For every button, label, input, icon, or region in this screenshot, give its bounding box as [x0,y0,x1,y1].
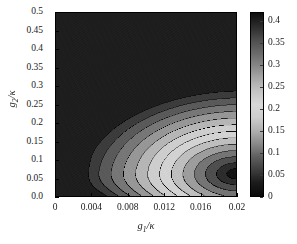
colorbar-tick-label: 0 [268,192,273,202]
y-axis-label: g2/κ [6,77,20,121]
colorbar-ticks: 00.050.10.150.20.250.30.350.4 [250,0,297,244]
x-axis-label: g1/κ [55,220,237,234]
colorbar-tick-mark [260,109,263,110]
colorbar-tick-label: 0.3 [268,60,280,70]
y-tick-mark [55,142,59,143]
colorbar-tick-label: 0.35 [268,38,285,48]
y-tick-mark [55,160,59,161]
x-tick-mark [91,193,92,197]
x-tick-mark [128,193,129,197]
colorbar-tick-mark [260,43,263,44]
y-tick-mark [55,123,59,124]
colorbar-tick-mark [260,197,263,198]
colorbar-tick-mark [260,153,263,154]
y-tick-mark [55,68,59,69]
colorbar-tick-mark [260,175,263,176]
y-tick-mark [55,105,59,106]
colorbar-tick-mark [260,131,263,132]
y-tick-mark [55,86,59,87]
colorbar-tick-label: 0.25 [268,82,285,92]
y-tick-mark [55,179,59,180]
colorbar-tick-label: 0.4 [268,16,280,26]
colorbar-tick-mark [260,65,263,66]
colorbar-tick-label: 0.05 [268,170,285,180]
y-tick-mark [55,49,59,50]
x-tick-mark [201,193,202,197]
colorbar-tick-label: 0.2 [268,104,280,114]
y-tick-mark [55,12,59,13]
contour-plot-figure: 0.00.050.10.150.20.250.30.350.40.450.5 0… [0,0,297,244]
colorbar-tick-mark [260,87,263,88]
y-tick-mark [55,31,59,32]
colorbar-tick-mark [260,21,263,22]
colorbar-tick-label: 0.1 [268,148,280,158]
colorbar-tick-label: 0.15 [268,126,285,136]
x-tick-mark [237,193,238,197]
x-tick-mark [164,193,165,197]
y-tick-mark [55,197,59,198]
